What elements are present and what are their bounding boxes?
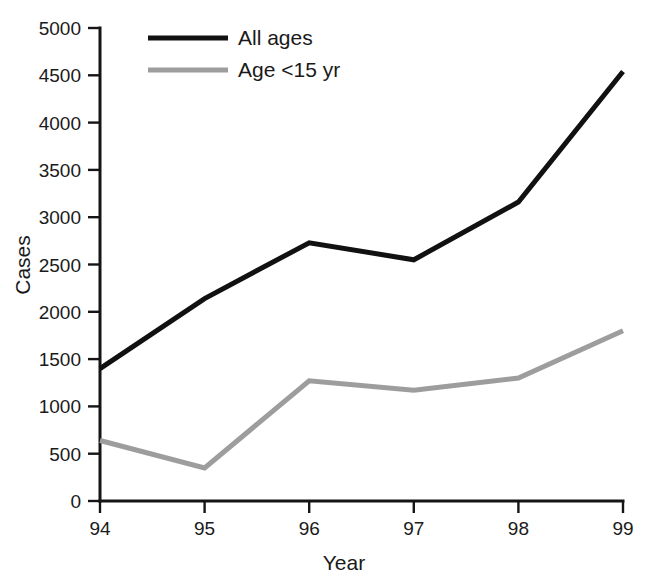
y-tick-label-5000: 5000 [39,18,81,39]
x-tick-label-96: 96 [299,518,320,539]
x-tick-label-95: 95 [194,518,215,539]
y-tick-label-2000: 2000 [39,302,81,323]
y-axis-title: Cases [11,235,34,295]
series-line-age-under-15 [100,331,623,468]
y-tick-label-2500: 2500 [39,255,81,276]
x-tick-label-94: 94 [89,518,111,539]
legend: All ages Age <15 yr [148,26,340,81]
y-tick-label-4000: 4000 [39,113,81,134]
y-tick-label-0: 0 [70,491,81,512]
x-axis-ticks [100,501,623,513]
series-line-all-ages [100,72,623,369]
y-tick-label-1500: 1500 [39,349,81,370]
legend-label-all-ages: All ages [238,26,313,49]
y-tick-label-4500: 4500 [39,65,81,86]
line-chart: 5000 4500 4000 3500 3000 2500 2000 1500 … [0,0,656,580]
y-tick-label-3000: 3000 [39,207,81,228]
y-tick-label-1000: 1000 [39,396,81,417]
y-tick-label-3500: 3500 [39,160,81,181]
x-tick-label-98: 98 [508,518,529,539]
y-axis-ticks [88,28,100,501]
legend-label-age-under-15: Age <15 yr [238,58,340,81]
x-tick-label-99: 99 [612,518,633,539]
chart-figure: 5000 4500 4000 3500 3000 2500 2000 1500 … [0,0,656,580]
x-tick-label-97: 97 [403,518,424,539]
x-axis-title: Year [323,551,365,574]
y-tick-label-500: 500 [49,444,81,465]
